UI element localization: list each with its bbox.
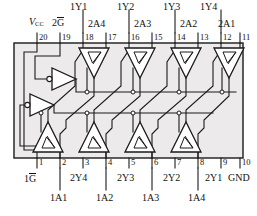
enable-junction-buffer-2a1 xyxy=(220,90,224,94)
signal-label-1y3: 1Y3 xyxy=(163,2,180,12)
inverter-2g-bubble xyxy=(47,76,52,81)
enable-1g-label: 1G xyxy=(24,173,36,184)
pin-number-bottom-1: 1 xyxy=(39,158,43,167)
signal-label-2y1: 2Y1 xyxy=(205,173,222,183)
pin-number-bottom-8: 8 xyxy=(200,158,204,167)
inverter-1g-bubble xyxy=(25,102,30,107)
pin-number-top-17: 17 xyxy=(108,33,117,42)
pin-number-bottom-2: 2 xyxy=(62,158,66,167)
vcc-label: VCC xyxy=(29,17,44,28)
pin-number-top-13: 13 xyxy=(200,33,209,42)
enable-junction-buffer-2a4 xyxy=(85,90,89,94)
signal-label-2y3: 2Y3 xyxy=(117,173,134,183)
signal-label-1a4: 1A4 xyxy=(188,193,205,203)
enable-junction-buffer-2a2 xyxy=(177,90,181,94)
pin-number-top-12: 12 xyxy=(223,33,232,42)
enable-junction-buffer-1a4 xyxy=(177,111,181,115)
pin-number-bottom-7: 7 xyxy=(177,158,181,167)
pin-number-bottom-5: 5 xyxy=(131,158,135,167)
signal-label-1a1: 1A1 xyxy=(50,193,67,203)
pin-number-top-11: 11 xyxy=(242,33,250,42)
pin-number-bottom-4: 4 xyxy=(108,158,112,167)
signal-label-2a2: 2A2 xyxy=(180,19,197,29)
signal-label-2y4: 2Y4 xyxy=(70,173,87,183)
signal-label-2y2: 2Y2 xyxy=(163,173,180,183)
pin-number-bottom-9: 9 xyxy=(223,158,227,167)
enable-junction-buffer-1a1 xyxy=(39,111,43,115)
signal-label-2a4: 2A4 xyxy=(88,19,105,29)
enable-junction-buffer-1a2 xyxy=(85,111,89,115)
signal-label-gnd: GND xyxy=(228,173,250,183)
enable-junction-buffer-1a3 xyxy=(131,111,135,115)
ic-logic-diagram: 1Y11Y21Y31Y4 2A42A32A22A1 20191817161514… xyxy=(0,0,257,216)
signal-label-1a3: 1A3 xyxy=(142,193,159,203)
signal-label-1y4: 1Y4 xyxy=(200,2,217,12)
pin-number-top-18: 18 xyxy=(85,33,94,42)
pin-number-bottom-3: 3 xyxy=(85,158,89,167)
signal-label-2a3: 2A3 xyxy=(134,19,151,29)
vcc-subscript: CC xyxy=(35,20,44,27)
signal-label-1a2: 1A2 xyxy=(96,193,113,203)
enable-2g-label: 2G xyxy=(52,17,64,28)
pin-number-top-19: 19 xyxy=(62,33,71,42)
signal-label-1y2: 1Y2 xyxy=(117,2,134,12)
pin-number-top-16: 16 xyxy=(131,33,140,42)
pin-number-top-14: 14 xyxy=(177,33,186,42)
pin-number-bottom-6: 6 xyxy=(154,158,158,167)
pin-number-bottom-10: 10 xyxy=(242,158,251,167)
pin-number-top-15: 15 xyxy=(154,33,163,42)
pin-number-top-20: 20 xyxy=(39,33,48,42)
enable-1g-bar: G xyxy=(29,173,36,184)
enable-2g-bar: G xyxy=(57,17,64,28)
enable-junction-buffer-2a3 xyxy=(131,90,135,94)
signal-label-1y1: 1Y1 xyxy=(70,2,87,12)
signal-label-2a1: 2A1 xyxy=(218,19,235,29)
